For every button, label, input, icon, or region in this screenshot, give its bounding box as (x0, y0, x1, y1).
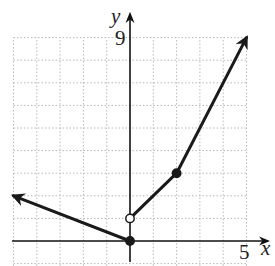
piecewise-graph (0, 0, 275, 266)
closed-point (126, 237, 134, 245)
x-tick-label: 5 (239, 240, 250, 265)
closed-point (172, 169, 180, 177)
x-axis-label: x (261, 236, 270, 261)
open-point (126, 214, 134, 222)
series-line (177, 38, 247, 174)
y-tick-label: 9 (115, 26, 126, 51)
